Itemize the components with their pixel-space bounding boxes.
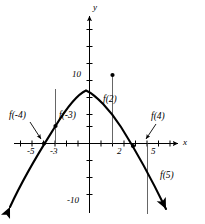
graph-figure: x y -5 -3 2 5 10 -10 f(-4) f(-3) f(2) f(… (0, 0, 205, 224)
point-f-4 (131, 144, 135, 148)
x-tick-label-2: 2 (117, 147, 122, 156)
x-tick-label-5: 5 (151, 147, 156, 156)
y-tick-label-neg10: -10 (67, 196, 79, 205)
graph-canvas (0, 0, 205, 224)
point-f-2 (110, 73, 114, 77)
leader-arrow-f-neg4 (30, 122, 41, 139)
x-tick-label-neg3: -3 (50, 147, 58, 156)
function-label-f-4: f(4) (151, 112, 165, 122)
function-label-f-neg4: f(-4) (9, 111, 26, 121)
function-label-f-2: f(2) (103, 95, 117, 105)
x-tick-label-neg5: -5 (27, 147, 35, 156)
y-axis (87, 16, 93, 213)
function-label-f-5: f(5) (160, 171, 174, 181)
point-f-neg4 (42, 141, 46, 145)
function-label-f-neg3: f(-3) (59, 111, 76, 121)
x-axis-label: x (183, 138, 187, 147)
y-tick-label-10: 10 (72, 70, 81, 79)
y-axis-label: y (93, 3, 97, 12)
point-f-neg3 (53, 124, 57, 128)
leader-arrow-f-4 (146, 124, 156, 139)
